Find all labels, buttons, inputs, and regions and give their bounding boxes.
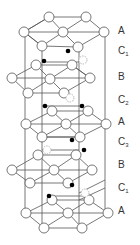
layer-label-a: A (118, 206, 125, 216)
layer-label-a: A (118, 117, 125, 127)
layer-label-a: A (118, 26, 125, 36)
layer-label-c3: C3 (118, 137, 129, 150)
layer-label-b: B (118, 160, 125, 170)
layer-label-b: B (118, 72, 125, 82)
layer-label-c1: C1 (118, 183, 129, 196)
layer-label-c1: C1 (118, 46, 129, 59)
layer-label-c2: C2 (118, 95, 129, 108)
